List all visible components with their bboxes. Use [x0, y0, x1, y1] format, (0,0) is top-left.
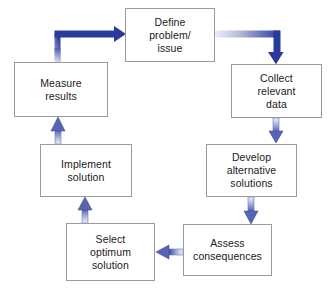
node-measure-results[interactable]: Measureresults — [14, 62, 108, 117]
arrow-define-to-collect — [215, 31, 284, 65]
arrow-develop-to-assess — [244, 197, 258, 224]
node-assess-consequences-label: Assessconsequences — [184, 237, 271, 263]
node-develop-alternatives-label: Developalternativesolutions — [207, 151, 296, 190]
node-measure-results-label: Measureresults — [15, 77, 107, 103]
node-select-optimum[interactable]: Selectoptimumsolution — [66, 223, 155, 281]
node-select-optimum-label: Selectoptimumsolution — [67, 233, 154, 272]
arrow-select-to-implement — [78, 197, 92, 223]
node-implement-solution[interactable]: Implementsolution — [40, 144, 132, 197]
arrow-implement-to-measure — [51, 117, 65, 144]
node-collect-data-label: Collectrelevantdata — [232, 72, 321, 111]
arrow-collect-to-develop — [269, 118, 283, 143]
node-develop-alternatives[interactable]: Developalternativesolutions — [206, 144, 297, 197]
node-define-problem-label: Defineproblem/issue — [126, 16, 214, 55]
node-implement-solution-label: Implementsolution — [41, 158, 131, 184]
flowchart-canvas: Defineproblem/issue Collectrelevantdata … — [0, 0, 334, 290]
arrow-measure-to-define — [55, 26, 127, 63]
node-assess-consequences[interactable]: Assessconsequences — [183, 224, 272, 276]
node-define-problem[interactable]: Defineproblem/issue — [125, 8, 215, 62]
node-collect-data[interactable]: Collectrelevantdata — [231, 64, 322, 118]
arrow-assess-to-select — [156, 245, 183, 259]
